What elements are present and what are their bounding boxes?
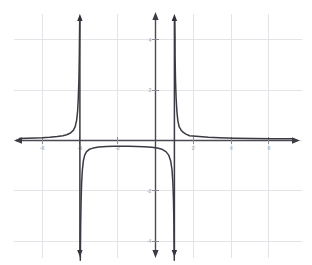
x-tick-label: -6 — [40, 145, 45, 151]
y-tick-label: 2 — [149, 87, 152, 93]
x-tick-label: -2 — [115, 145, 120, 151]
x-tick-label: 6 — [267, 145, 270, 151]
function-plot: -6 -4 -2 2 4 6 4 2 -2 -4 — [0, 0, 312, 265]
y-tick-label: -2 — [147, 188, 152, 194]
x-tick-label: 2 — [192, 145, 195, 151]
graph-screenshot: -6 -4 -2 2 4 6 4 2 -2 -4 — [0, 0, 312, 265]
y-tick-label: -4 — [147, 238, 152, 244]
y-tick-label: 4 — [149, 37, 152, 43]
x-tick-label: 4 — [230, 145, 233, 151]
